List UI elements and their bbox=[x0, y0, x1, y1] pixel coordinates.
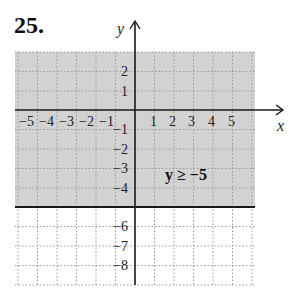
inequality-annotation: y ≥ −5 bbox=[165, 166, 207, 184]
x-axis-label: x bbox=[276, 117, 284, 134]
x-tick: −4 bbox=[39, 114, 54, 129]
y-tick: −3 bbox=[113, 161, 128, 176]
y-tick: −1 bbox=[113, 122, 128, 137]
x-tick: −2 bbox=[79, 114, 94, 129]
x-tick: 2 bbox=[169, 114, 176, 129]
x-tick: −5 bbox=[19, 114, 34, 129]
x-tick: 3 bbox=[188, 114, 195, 129]
x-tick: −1 bbox=[99, 114, 114, 129]
y-tick: −8 bbox=[113, 258, 128, 273]
y-tick: −6 bbox=[113, 219, 128, 234]
y-tick: 2 bbox=[121, 64, 128, 79]
inequality-graph: y x −5 −4 −3 −2 −1 1 2 3 4 5 2 1 −1 −2 −… bbox=[0, 0, 296, 291]
y-axis-label: y bbox=[115, 20, 125, 38]
x-tick: 1 bbox=[150, 114, 157, 129]
y-tick: −2 bbox=[113, 142, 128, 157]
y-tick: −7 bbox=[113, 239, 128, 254]
y-tick: 1 bbox=[121, 84, 128, 99]
y-tick: −4 bbox=[113, 181, 128, 196]
x-tick: 5 bbox=[228, 114, 235, 129]
x-tick: 4 bbox=[208, 114, 215, 129]
x-tick: −3 bbox=[59, 114, 74, 129]
